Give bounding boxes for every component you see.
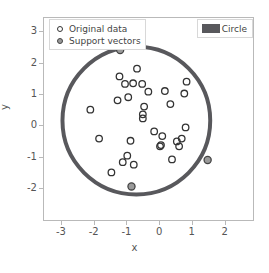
y-tick-label: -2: [15, 183, 37, 193]
data-point-original: [139, 81, 146, 88]
legend-item-support-vectors: Support vectors: [53, 35, 141, 46]
data-point-original: [151, 128, 158, 135]
y-tick-mark: [39, 125, 43, 126]
data-point-support-vector: [128, 183, 135, 190]
x-axis-label: x: [0, 242, 269, 253]
x-tick-mark: [159, 221, 160, 225]
data-point-original: [181, 90, 188, 97]
data-point-original: [134, 65, 141, 72]
x-tick-mark: [225, 221, 226, 225]
data-point-original: [169, 156, 176, 163]
data-point-original: [127, 137, 134, 144]
y-tick-label: 0: [15, 120, 37, 130]
y-tick-label: 2: [15, 58, 37, 68]
x-tick-mark: [94, 221, 95, 225]
legend-label-support-vectors: Support vectors: [69, 36, 141, 46]
x-tick-label: 1: [180, 226, 204, 238]
y-tick-label: -1: [15, 152, 37, 162]
x-tick-label: -2: [82, 226, 106, 238]
legend-label-original-data: Original data: [69, 24, 127, 34]
circle-boundary: [62, 47, 210, 195]
x-tick-label: 0: [147, 226, 171, 238]
data-point-original: [96, 135, 103, 142]
data-point-original: [114, 97, 121, 104]
legend-item-circle: Circle: [202, 23, 247, 34]
data-point-original: [108, 169, 115, 176]
y-tick-label: 1: [15, 89, 37, 99]
data-point-original: [125, 94, 132, 101]
y-tick-mark: [39, 94, 43, 95]
legend-markers: Original data Support vectors: [49, 19, 146, 50]
data-point-original: [162, 88, 169, 95]
data-point-original: [122, 81, 129, 88]
data-point-original: [183, 78, 190, 85]
legend-patch: Circle: [197, 19, 253, 38]
x-tick-label: 2: [213, 226, 237, 238]
data-point-original: [87, 106, 94, 113]
circle-patch-layer: [62, 47, 210, 195]
data-point-original: [182, 124, 189, 131]
x-tick-mark: [192, 221, 193, 225]
data-point-support-vector: [204, 156, 211, 163]
x-tick-label: -3: [49, 226, 73, 238]
legend-item-original-data: Original data: [53, 23, 141, 34]
filled-rect-swatch-icon: [202, 24, 220, 33]
data-point-original: [119, 159, 126, 166]
data-point-original: [167, 101, 174, 108]
x-tick-label: -1: [114, 226, 138, 238]
data-point-original: [130, 80, 137, 87]
figure-canvas: -3-2-1012 3210-1-2 x y Original data Sup…: [0, 0, 269, 273]
y-tick-mark: [39, 157, 43, 158]
y-tick-label: 3: [15, 26, 37, 36]
y-axis-label: y: [0, 104, 10, 110]
x-tick-mark: [61, 221, 62, 225]
open-circle-marker-icon: [53, 26, 67, 32]
data-point-original: [145, 88, 152, 95]
data-point-original: [140, 115, 147, 122]
data-point-original: [116, 73, 123, 80]
y-tick-mark: [39, 31, 43, 32]
data-point-original: [130, 161, 137, 168]
y-tick-mark: [39, 188, 43, 189]
y-tick-mark: [39, 63, 43, 64]
data-point-original: [141, 103, 148, 110]
data-point-original: [159, 133, 166, 140]
data-point-original: [124, 152, 131, 159]
legend-label-circle: Circle: [222, 24, 247, 34]
x-tick-mark: [126, 221, 127, 225]
filled-circle-marker-icon: [53, 38, 67, 44]
